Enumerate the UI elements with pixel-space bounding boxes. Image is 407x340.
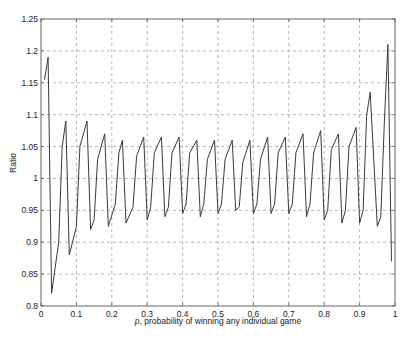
line-chart: 00.10.20.30.40.50.60.70.80.91 0.80.850.9…: [0, 0, 407, 340]
y-tick-label: 1.15: [21, 78, 38, 88]
y-tick-label: 1.05: [21, 142, 38, 152]
y-tick-label: 0.85: [21, 269, 38, 279]
y-tick-labels: 0.80.850.90.9511.051.11.151.21.25: [21, 14, 38, 311]
x-tick-label: 0.8: [318, 309, 330, 319]
y-tick-label: 0.8: [26, 301, 38, 311]
y-tick-label: 1.2: [26, 46, 38, 56]
x-tick-label: 0.2: [106, 309, 118, 319]
y-tick-label: 1: [33, 173, 38, 183]
x-axis-label: p, probability of winning any individual…: [134, 316, 302, 326]
x-tick-label: 0: [39, 309, 44, 319]
y-tick-label: 1.1: [26, 110, 38, 120]
y-tick-label: 0.9: [26, 237, 38, 247]
y-tick-label: 0.95: [21, 205, 38, 215]
y-tick-label: 1.25: [21, 14, 38, 24]
y-axis-label: Ratio: [8, 153, 18, 173]
x-tick-label: 1: [393, 309, 398, 319]
grid-lines: [41, 19, 395, 306]
x-axis-label-text: , probability of winning any individual …: [140, 316, 302, 326]
x-tick-label: 0.9: [354, 309, 366, 319]
x-tick-label: 0.1: [70, 309, 82, 319]
